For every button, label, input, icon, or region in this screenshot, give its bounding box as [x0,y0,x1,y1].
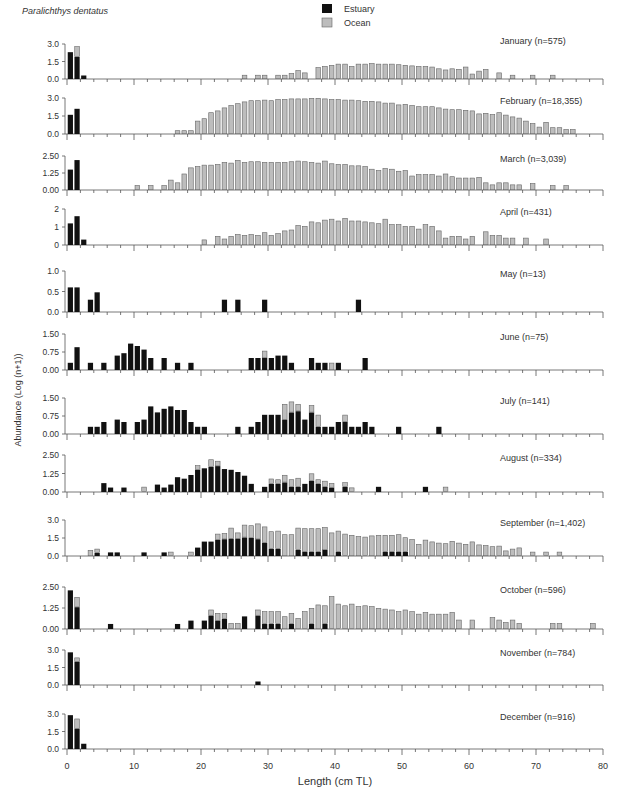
legend-label-ocean: Ocean [344,18,371,28]
bar-ocean [323,66,328,78]
bar-ocean [229,236,234,244]
bar-ocean [457,543,462,556]
bar-ocean [289,230,294,245]
bar-estuary [222,619,227,629]
bar-ocean [430,226,435,244]
bar-estuary [195,427,200,434]
bar-ocean [356,607,361,629]
bar-ocean [269,612,274,624]
bar-ocean [423,613,428,629]
bar-ocean [504,238,509,245]
bar-ocean [222,613,227,618]
bar-ocean [303,529,308,552]
y-tick-label: 1.0 [47,266,59,276]
bar-ocean [557,552,562,556]
bar-estuary [262,624,267,629]
bar-ocean [383,169,388,190]
bar-estuary [108,624,113,629]
bar-estuary [222,539,227,556]
bar-ocean [416,66,421,78]
bar-ocean [370,536,375,556]
bar-estuary [101,483,106,492]
bar-ocean [336,64,341,79]
bar-ocean [530,75,535,78]
bar-ocean [557,128,562,134]
bar-ocean [296,71,301,79]
bar-estuary [316,363,321,370]
bar-estuary [349,427,354,434]
bar-ocean [510,117,515,134]
panel-label: October (n=596) [500,585,566,595]
y-tick-label: 0.0 [47,74,59,84]
bar-ocean [323,528,328,550]
bar-ocean [403,538,408,552]
bar-ocean [490,115,495,134]
bar-estuary [95,292,100,312]
bar-estuary [255,616,260,629]
bar-estuary [242,476,247,492]
bar-estuary [68,287,73,312]
x-axis-title: Length (cm TL) [298,775,372,787]
bar-ocean [222,108,227,134]
panel-december: 0.01.53.0December (n=916) [47,709,603,755]
bar-ocean [550,623,555,628]
bar-ocean [269,479,274,484]
bar-estuary [376,487,381,492]
bar-ocean [323,481,328,486]
bar-estuary [162,552,167,556]
bar-ocean [296,528,301,550]
panel-august: 0.001.252.50August (n=334) [42,450,603,498]
bar-ocean [470,236,475,244]
bar-estuary [68,115,73,134]
bar-ocean [323,99,328,134]
bar-estuary [356,300,361,312]
bar-estuary [255,539,260,556]
bar-ocean [289,73,294,78]
bar-ocean [202,119,207,134]
bar-estuary [135,422,140,434]
bar-estuary [389,552,394,556]
y-tick-label: 0.00 [42,429,59,439]
bar-ocean [450,177,455,190]
bar-ocean [242,75,247,78]
bar-estuary [74,160,79,190]
bar-estuary [74,287,79,312]
bar-ocean [282,162,287,189]
bar-ocean [363,64,368,79]
bar-ocean [182,174,187,190]
bar-estuary [383,552,388,556]
bar-ocean [363,222,368,245]
bar-ocean [510,549,515,556]
y-tick-label: 0.00 [42,624,59,634]
bar-ocean [236,160,241,189]
bar-ocean [229,163,234,190]
bar-ocean [396,65,401,79]
y-tick-label: 2.50 [42,450,59,460]
bar-ocean [416,614,421,629]
bar-ocean [343,483,348,487]
bar-ocean [316,529,321,552]
bar-estuary [115,356,120,370]
bar-ocean [215,534,220,539]
legend-swatch-estuary [322,4,332,13]
bar-estuary [74,347,79,370]
bar-ocean [75,658,80,661]
bar-ocean [376,64,381,79]
y-tick-label: 0.0 [47,744,59,754]
bar-ocean [256,162,261,190]
bar-estuary [309,481,314,492]
bar-ocean [349,488,354,492]
bar-ocean [430,175,435,190]
bar-ocean [363,537,368,556]
bar-ocean [470,178,475,190]
bar-ocean [483,232,488,245]
bar-ocean [249,101,254,134]
bar-estuary [68,652,73,685]
bar-ocean [470,542,475,556]
bar-ocean [309,608,314,623]
bar-ocean [510,620,515,629]
bar-estuary [269,358,274,370]
x-tick-label: 50 [397,761,407,771]
bar-ocean [95,549,100,553]
bar-ocean [356,537,361,556]
